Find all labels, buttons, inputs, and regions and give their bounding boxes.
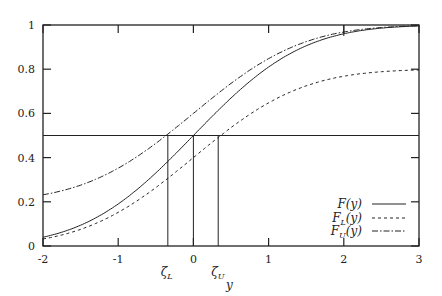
y-tick-label: 0.6: [18, 107, 36, 120]
curves: [43, 26, 419, 239]
curve-fu: [43, 26, 419, 195]
y-tick-label: 1: [28, 19, 35, 32]
curve-f: [43, 26, 419, 237]
x-tick-label: 2: [340, 253, 347, 266]
y-tick-label: 0.2: [18, 196, 36, 209]
y-tick-label: 0: [28, 240, 35, 253]
y-tick-label: 0.4: [18, 152, 36, 165]
legend-label: F(y): [337, 197, 363, 211]
legend: F(y)FL(y)FU(y): [330, 197, 406, 240]
axes: -2-1123000.20.40.60.81ζLζUy: [18, 19, 423, 292]
legend-label: FU(y): [330, 224, 363, 240]
x-axis-label: y: [225, 278, 233, 292]
zeta-l-label: ζL: [161, 265, 173, 281]
zeta-u-label: ζU: [211, 265, 225, 281]
x-tick-label: 3: [416, 253, 423, 266]
y-tick-label: 0.8: [18, 63, 36, 76]
cdf-chart: -2-1123000.20.40.60.81ζLζUy F(y)FL(y)FU(…: [0, 0, 442, 296]
x-tick-label: 0: [190, 253, 197, 266]
x-tick-label: 1: [265, 253, 272, 266]
x-tick-label: -1: [113, 253, 124, 266]
curve-fl: [43, 70, 419, 239]
x-tick-label: -2: [38, 253, 49, 266]
